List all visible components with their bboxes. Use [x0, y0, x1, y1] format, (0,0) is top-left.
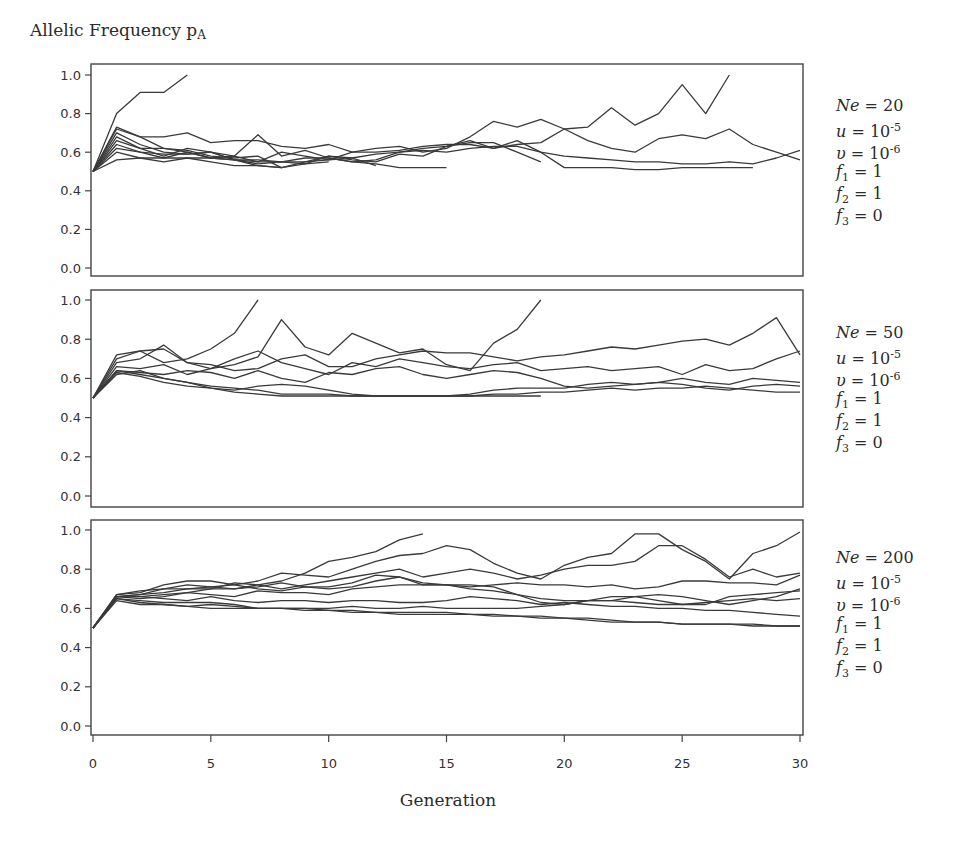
param-f2: f2 = 1 — [836, 635, 914, 657]
series-line-run5 — [93, 575, 800, 628]
series-line-run4 — [93, 575, 800, 628]
x-tick-label: 15 — [438, 756, 455, 771]
x-axis: 051015202530 — [89, 735, 808, 771]
param-ne: Ne = 20 — [836, 95, 903, 117]
param-f1: f1 = 1 — [836, 161, 903, 183]
y-tick-label: 0.8 — [60, 106, 81, 121]
series-line-run4 — [93, 351, 800, 398]
x-axis-title: Generation — [0, 790, 896, 810]
param-u: u = 10-5 — [836, 117, 903, 139]
y-tick-label: 0.4 — [60, 640, 81, 655]
y-tick-label: 0.0 — [60, 719, 81, 734]
plot-frame — [91, 64, 803, 276]
y-tick-label: 0.0 — [60, 489, 81, 504]
param-f2: f2 = 1 — [836, 410, 903, 432]
series-line-run2 — [93, 532, 800, 628]
series-line-run1 — [93, 300, 258, 398]
y-tick-label: 1.0 — [60, 293, 81, 308]
y-tick-label: 0.6 — [60, 145, 81, 160]
param-ne: Ne = 200 — [836, 547, 914, 569]
x-tick-label: 5 — [207, 756, 215, 771]
param-ne: Ne = 50 — [836, 322, 903, 344]
panel-ne-20: 0.00.20.40.60.81.0 — [60, 64, 803, 276]
y-tick-label: 0.4 — [60, 183, 81, 198]
y-tick-label: 1.0 — [60, 523, 81, 538]
plot-frame — [91, 290, 803, 507]
y-tick-label: 0.4 — [60, 410, 81, 425]
param-f1: f1 = 1 — [836, 613, 914, 635]
y-tick-label: 0.8 — [60, 332, 81, 347]
plot-frame — [91, 520, 803, 735]
param-v: υ = 10-6 — [836, 366, 903, 388]
x-tick-label: 0 — [89, 756, 97, 771]
series-line-run5 — [93, 367, 800, 398]
y-tick-label: 0.2 — [60, 222, 81, 237]
y-tick-label: 0.6 — [60, 601, 81, 616]
param-f3: f3 = 0 — [836, 432, 903, 454]
param-f1: f1 = 1 — [836, 388, 903, 410]
params-panel-3: Ne = 200 u = 10-5 υ = 10-6 f1 = 1 f2 = 1… — [836, 547, 914, 679]
param-u: u = 10-5 — [836, 344, 903, 366]
y-tick-label: 0.2 — [60, 449, 81, 464]
panel-ne-50: 0.00.20.40.60.81.0 — [60, 290, 803, 507]
x-tick-label: 20 — [556, 756, 573, 771]
chart-area: 0.00.20.40.60.81.0 0.00.20.40.60.81.0 0.… — [0, 0, 968, 844]
series-line-run8 — [93, 148, 447, 171]
param-u: u = 10-5 — [836, 569, 914, 591]
y-tick-label: 0.2 — [60, 679, 81, 694]
param-f3: f3 = 0 — [836, 205, 903, 227]
param-f2: f2 = 1 — [836, 183, 903, 205]
y-tick-label: 0.0 — [60, 261, 81, 276]
y-tick-label: 0.8 — [60, 562, 81, 577]
series-line-run2 — [93, 300, 541, 398]
param-v: υ = 10-6 — [836, 139, 903, 161]
param-v: υ = 10-6 — [836, 591, 914, 613]
series-line-run3 — [93, 127, 800, 171]
params-panel-2: Ne = 50 u = 10-5 υ = 10-6 f1 = 1 f2 = 1 … — [836, 322, 903, 454]
x-tick-label: 10 — [320, 756, 337, 771]
params-panel-1: Ne = 20 u = 10-5 υ = 10-6 f1 = 1 f2 = 1 … — [836, 95, 903, 227]
panel-ne-200: 0.00.20.40.60.81.0 — [60, 520, 803, 735]
series-line-run4 — [93, 133, 800, 172]
x-tick-label: 25 — [674, 756, 691, 771]
y-tick-label: 0.6 — [60, 371, 81, 386]
param-f3: f3 = 0 — [836, 657, 914, 679]
series-line-run3 — [93, 546, 800, 628]
y-tick-label: 1.0 — [60, 68, 81, 83]
x-tick-label: 30 — [792, 756, 809, 771]
series-line-run6 — [93, 371, 800, 398]
series-line-run2 — [93, 75, 729, 172]
